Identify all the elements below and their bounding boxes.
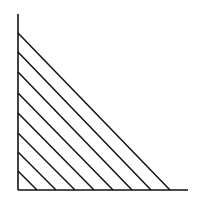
string-line — [18, 33, 170, 190]
string-art-diagram — [0, 0, 199, 203]
string-line — [18, 52, 151, 190]
string-line — [18, 113, 94, 190]
axes — [18, 14, 188, 190]
string-line — [18, 93, 113, 190]
string-line — [18, 152, 56, 190]
string-line — [18, 171, 37, 190]
string-lines — [18, 33, 170, 190]
